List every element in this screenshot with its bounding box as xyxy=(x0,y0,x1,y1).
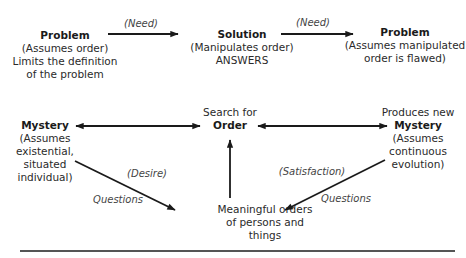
arrows-layer xyxy=(0,0,466,258)
bottom-rule xyxy=(20,250,455,252)
arrow-newmystery-to-meaningful xyxy=(285,160,385,210)
arrow-mystery-to-meaningful xyxy=(75,161,175,210)
